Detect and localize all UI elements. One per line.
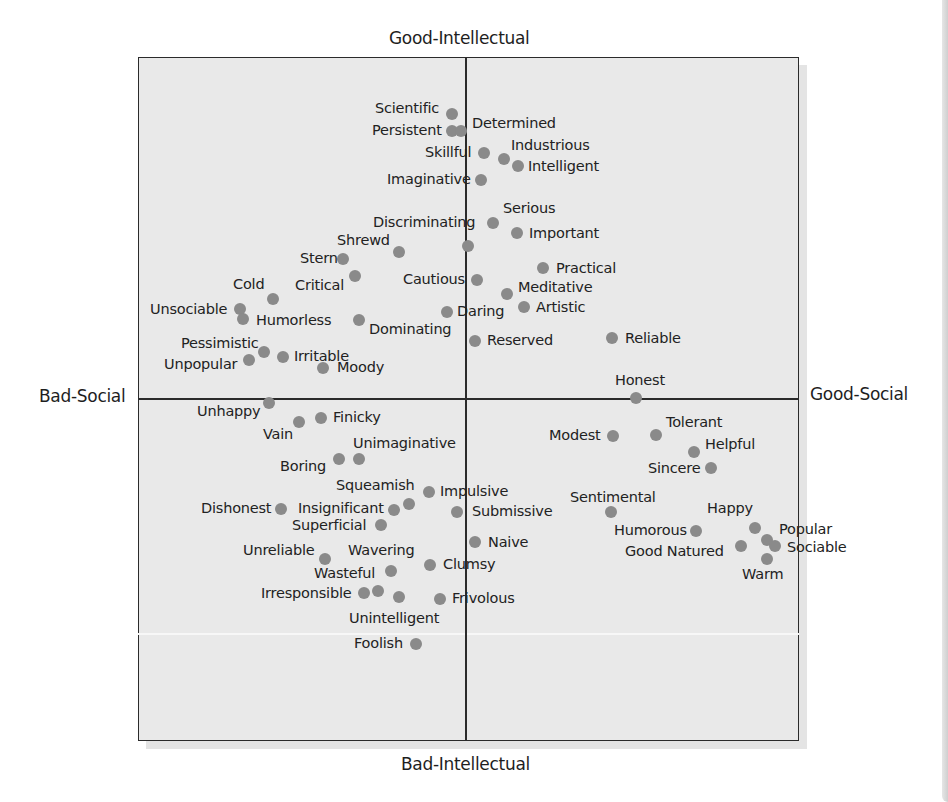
- data-point-label: Determined: [472, 116, 556, 131]
- data-point-marker: [434, 593, 446, 605]
- data-point-label: Moody: [337, 360, 384, 375]
- data-point-label: Shrewd: [337, 233, 390, 248]
- data-point-label: Frivolous: [452, 591, 515, 606]
- data-point-label: Submissive: [472, 504, 552, 519]
- data-point-marker: [410, 638, 422, 650]
- data-point-label: Wavering: [348, 543, 415, 558]
- data-point-label: Sentimental: [570, 490, 656, 505]
- data-point-label: Finicky: [333, 410, 381, 425]
- data-point-label: Boring: [280, 459, 326, 474]
- data-point-marker: [478, 147, 490, 159]
- data-point-label: Intelligent: [528, 159, 599, 174]
- data-point-label: Skillful: [425, 145, 471, 160]
- data-point-marker: [705, 462, 717, 474]
- data-point-label: Humorous: [614, 523, 687, 538]
- data-point-label: Serious: [503, 201, 555, 216]
- data-point-label: Warm: [742, 567, 783, 582]
- data-point-marker: [353, 453, 365, 465]
- data-point-marker: [650, 429, 662, 441]
- data-point-label: Unpopular: [164, 357, 237, 372]
- data-point-label: Foolish: [354, 636, 403, 651]
- data-point-label: Helpful: [705, 437, 755, 452]
- data-point-marker: [423, 486, 435, 498]
- data-point-marker: [393, 591, 405, 603]
- page-edge-strip: [942, 0, 948, 802]
- data-point-label: Unsociable: [150, 302, 227, 317]
- data-point-marker: [607, 430, 619, 442]
- data-point-label: Insignificant: [298, 501, 384, 516]
- data-point-label: Unhappy: [197, 404, 260, 419]
- data-point-marker: [501, 288, 513, 300]
- data-point-label: Reserved: [487, 333, 553, 348]
- data-point-label: Industrious: [511, 138, 590, 153]
- data-point-marker: [469, 335, 481, 347]
- data-point-marker: [471, 274, 483, 286]
- data-point-marker: [275, 503, 287, 515]
- data-point-label: Vain: [263, 427, 293, 442]
- data-point-label: Unimaginative: [353, 436, 456, 451]
- data-point-label: Reliable: [625, 331, 681, 346]
- data-point-marker: [749, 522, 761, 534]
- data-point-label: Modest: [549, 428, 601, 443]
- data-point-marker: [349, 270, 361, 282]
- data-point-marker: [315, 412, 327, 424]
- data-point-marker: [375, 519, 387, 531]
- data-point-label: Stern: [300, 251, 338, 266]
- data-point-marker: [518, 301, 530, 313]
- data-point-marker: [606, 332, 618, 344]
- data-point-marker: [243, 354, 255, 366]
- data-point-label: Cold: [233, 277, 264, 292]
- scan-artifact-line: [138, 633, 799, 635]
- data-point-label: Unreliable: [243, 543, 314, 558]
- data-point-marker: [393, 246, 405, 258]
- data-point-marker: [630, 392, 642, 404]
- data-point-label: Important: [529, 226, 599, 241]
- data-point-marker: [511, 227, 523, 239]
- data-point-label: Scientific: [375, 101, 439, 116]
- data-point-label: Sincere: [648, 461, 700, 476]
- data-point-marker: [317, 362, 329, 374]
- data-point-label: Discriminating: [373, 215, 475, 230]
- social-axis-line: [138, 398, 799, 400]
- data-point-label: Honest: [615, 373, 665, 388]
- data-point-marker: [263, 397, 275, 409]
- data-point-label: Unintelligent: [349, 611, 439, 626]
- data-point-label: Irresponsible: [261, 586, 352, 601]
- data-point-marker: [769, 540, 781, 552]
- data-point-label: Cautious: [403, 272, 465, 287]
- data-point-marker: [353, 314, 365, 326]
- data-point-label: Imaginative: [387, 172, 471, 187]
- data-point-marker: [424, 559, 436, 571]
- data-point-label: Artistic: [536, 300, 585, 315]
- data-point-marker: [446, 108, 458, 120]
- data-point-label: Dominating: [369, 322, 451, 337]
- data-point-marker: [237, 313, 249, 325]
- data-point-marker: [293, 416, 305, 428]
- data-point-marker: [451, 506, 463, 518]
- data-point-marker: [735, 540, 747, 552]
- data-point-label: Clumsy: [443, 557, 495, 572]
- data-point-marker: [455, 125, 467, 137]
- data-point-marker: [319, 553, 331, 565]
- data-point-marker: [688, 446, 700, 458]
- data-point-marker: [267, 293, 279, 305]
- data-point-label: Pessimistic: [181, 336, 258, 351]
- data-point-label: Daring: [457, 304, 504, 319]
- data-point-marker: [441, 306, 453, 318]
- data-point-marker: [690, 525, 702, 537]
- data-point-label: Meditative: [518, 280, 592, 295]
- data-point-marker: [761, 553, 773, 565]
- data-point-label: Popular: [779, 522, 832, 537]
- data-point-label: Practical: [556, 261, 616, 276]
- data-point-label: Dishonest: [201, 501, 271, 516]
- data-point-marker: [388, 504, 400, 516]
- data-point-marker: [487, 217, 499, 229]
- data-point-marker: [512, 160, 524, 172]
- data-point-marker: [258, 346, 270, 358]
- data-point-marker: [605, 506, 617, 518]
- data-point-marker: [537, 262, 549, 274]
- data-point-marker: [462, 240, 474, 252]
- axis-label-bottom: Bad-Intellectual: [401, 754, 530, 774]
- data-point-label: Superficial: [292, 518, 366, 533]
- data-point-label: Naive: [488, 535, 528, 550]
